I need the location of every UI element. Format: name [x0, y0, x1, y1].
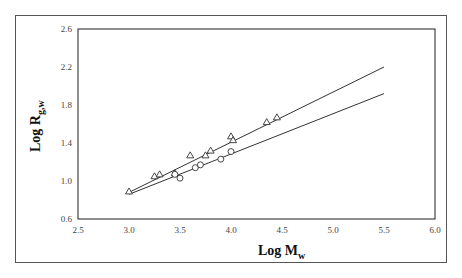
y-tick-label: 1.8 [61, 100, 73, 110]
x-tick-label: 3.0 [123, 225, 135, 235]
y-tick-label: 1.4 [61, 138, 73, 148]
triangle-marker [263, 119, 270, 125]
triangle-marker [187, 152, 194, 158]
chart: 0.61.01.41.82.22.6 2.53.03.54.04.55.05.5… [0, 0, 462, 278]
x-tick-label: 5.0 [327, 225, 339, 235]
x-tick-label: 2.5 [72, 225, 84, 235]
triangle-marker [273, 114, 280, 120]
lower-fit-line [129, 94, 384, 195]
x-axis-ticks: 2.53.03.54.04.55.05.56.0 [72, 225, 441, 235]
x-tick-label: 4.0 [225, 225, 237, 235]
x-tick-label: 6.0 [429, 225, 441, 235]
y-tick-label: 1.0 [61, 176, 73, 186]
upper-fit-line [129, 67, 384, 192]
circle-marker [177, 175, 183, 181]
x-axis-label: Log Mw [258, 243, 306, 261]
y-tick-label: 2.2 [61, 62, 72, 72]
data-points [126, 114, 281, 194]
x-tick-label: 5.5 [378, 225, 390, 235]
circle-marker [228, 149, 234, 155]
y-axis-ticks: 0.61.01.41.82.22.6 [61, 24, 73, 224]
circle-marker [197, 162, 203, 168]
circle-marker [218, 156, 224, 162]
y-tick-label: 2.6 [61, 24, 73, 34]
plot-area [78, 29, 435, 219]
triangle-marker [207, 147, 214, 153]
y-axis-label: Log Rg,w [28, 100, 46, 152]
x-tick-label: 3.5 [174, 225, 186, 235]
fit-lines [129, 67, 384, 194]
y-tick-label: 0.6 [61, 214, 73, 224]
triangle-marker [156, 171, 163, 177]
x-tick-label: 4.5 [276, 225, 288, 235]
